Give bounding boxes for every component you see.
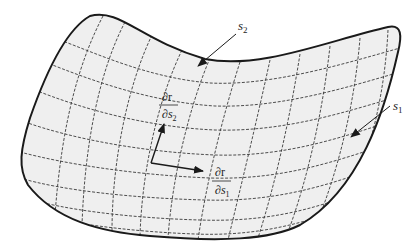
surface-patch: [21, 15, 400, 239]
svg-text:∂r: ∂r: [215, 165, 225, 179]
surface-diagram: s2 s1 ∂r ∂s2 ∂r ∂s1: [0, 0, 418, 249]
svg-text:∂r: ∂r: [162, 90, 172, 104]
s1-label: s1: [393, 98, 403, 115]
s2-label: s2: [238, 18, 248, 35]
